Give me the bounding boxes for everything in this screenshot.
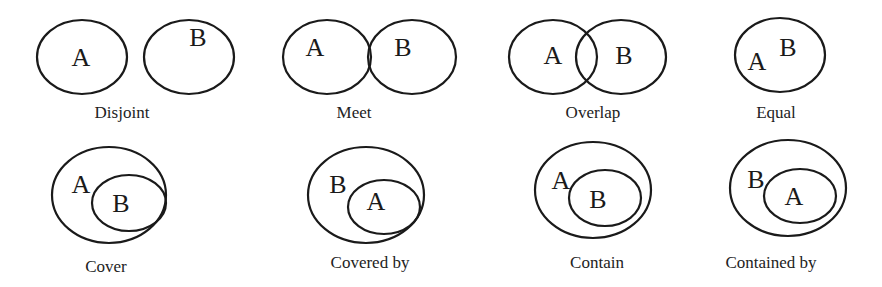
set-label-a: A <box>748 47 767 76</box>
relation-caption: Contained by <box>725 253 817 272</box>
relation-equal: ABEqual <box>735 18 825 122</box>
set-label-b: B <box>329 170 346 199</box>
relation-contained-by: BAContained by <box>725 140 846 272</box>
relation-contain: ABContain <box>535 142 651 272</box>
relation-disjoint: ABDisjoint <box>37 20 234 122</box>
relation-caption: Equal <box>756 103 796 122</box>
relation-caption: Covered by <box>331 253 410 272</box>
relation-caption: Cover <box>85 257 127 276</box>
set-label-a: A <box>552 166 571 195</box>
topological-relations-diagram: ABDisjointABMeetABOverlapABEqualABCoverB… <box>0 0 882 287</box>
region-ellipse <box>368 20 456 94</box>
region-ellipse <box>283 20 371 94</box>
relation-covered-by: BACovered by <box>308 147 424 272</box>
set-label-a: A <box>72 170 91 199</box>
set-label-a: A <box>306 33 325 62</box>
region-ellipse <box>52 147 166 243</box>
set-label-a: A <box>72 43 91 72</box>
set-label-b: B <box>189 23 206 52</box>
set-label-b: B <box>615 41 632 70</box>
relation-caption: Disjoint <box>95 103 150 122</box>
set-label-b: B <box>747 165 764 194</box>
set-label-b: B <box>779 33 796 62</box>
relation-caption: Overlap <box>566 103 621 122</box>
set-label-a: A <box>367 187 386 216</box>
relation-cover: ABCover <box>52 147 166 276</box>
set-label-b: B <box>589 185 606 214</box>
set-label-b: B <box>394 33 411 62</box>
relation-overlap: ABOverlap <box>509 20 666 122</box>
set-label-a: A <box>785 182 804 211</box>
set-label-a: A <box>544 41 563 70</box>
relation-caption: Meet <box>337 103 372 122</box>
set-label-b: B <box>112 189 129 218</box>
relation-meet: ABMeet <box>283 20 456 122</box>
relation-caption: Contain <box>570 253 624 272</box>
